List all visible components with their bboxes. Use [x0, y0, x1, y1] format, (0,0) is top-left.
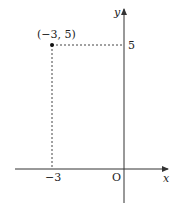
origin-label: O	[112, 171, 121, 184]
x-tick-label: −3	[45, 171, 61, 184]
point-label: (−3, 5)	[37, 28, 76, 41]
y-tick-label: 5	[128, 39, 135, 52]
point-marker	[50, 43, 54, 47]
coordinate-diagram: (−3, 5) 5 −3 O x y	[0, 0, 182, 212]
y-axis-label: y	[113, 6, 121, 19]
x-axis-label: x	[163, 172, 170, 185]
